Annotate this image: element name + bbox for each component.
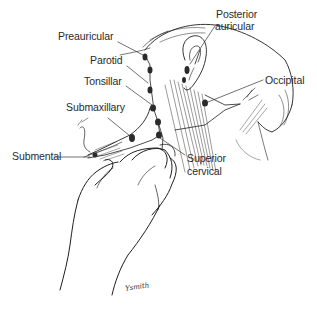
submaxillary-node-2 <box>129 134 135 142</box>
label-superior-cervical-line1: Superior <box>187 153 226 164</box>
label-occipital: Occipital <box>265 75 304 86</box>
label-tonsillar: Tonsillar <box>84 76 122 87</box>
posterior-auricular-node <box>185 66 190 74</box>
label-posterior-auricular-line1: Posterior <box>216 9 257 20</box>
occipital-node <box>202 100 208 107</box>
label-posterior-auricular-line2: auricular <box>215 21 254 32</box>
label-submaxillary: Submaxillary <box>66 102 125 113</box>
label-submental: Submental <box>12 151 61 162</box>
preauricular-node <box>143 54 148 61</box>
tonsillar-node <box>148 87 153 94</box>
label-superior-cervical-line2: cervical <box>187 166 222 177</box>
posterior-auricular-node-2 <box>182 77 186 83</box>
examiner-hands <box>60 144 176 295</box>
submental-node <box>93 153 98 158</box>
parotid-node <box>148 67 153 74</box>
lymph-node-diagram: Preauricular Posterior auricular Parotid… <box>0 0 317 318</box>
head-outline <box>143 24 293 160</box>
superior-cervical-node-2 <box>156 132 162 139</box>
superior-cervical-node-1 <box>155 119 161 126</box>
nape-shading <box>236 100 267 160</box>
submaxillary-node-1 <box>150 105 156 112</box>
label-preauricular: Preauricular <box>58 31 113 42</box>
label-parotid: Parotid <box>90 55 123 66</box>
